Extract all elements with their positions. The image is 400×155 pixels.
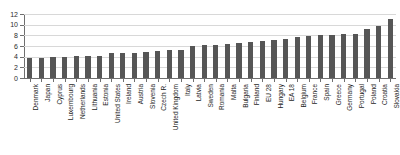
bar	[74, 56, 79, 78]
bar	[376, 26, 381, 78]
y-tick-mark	[20, 67, 24, 68]
x-tick-mark	[309, 79, 310, 82]
x-tick-mark	[355, 79, 356, 82]
bar	[155, 51, 160, 78]
x-tick-mark	[123, 79, 124, 82]
x-tick-label: EU 28	[265, 84, 272, 102]
x-tick-mark	[332, 79, 333, 82]
bar	[109, 53, 114, 78]
x-tick-label: Luxembourg	[67, 84, 74, 120]
x-tick-mark	[181, 79, 182, 82]
bar	[329, 35, 334, 78]
x-tick-mark	[262, 79, 263, 82]
x-tick-label: Sweden	[207, 84, 214, 108]
y-tick-label: 10	[4, 21, 18, 28]
x-tick-label: Malta	[230, 84, 237, 100]
x-tick-mark	[76, 79, 77, 82]
bar	[27, 58, 32, 78]
bar	[132, 53, 137, 78]
x-tick-mark	[390, 79, 391, 82]
x-tick-label: France	[311, 84, 318, 104]
x-tick-label: Germany	[346, 84, 353, 111]
x-tick-label: Japan	[44, 84, 51, 102]
x-tick-mark	[204, 79, 205, 82]
x-tick-label: Ireland	[125, 84, 132, 104]
x-tick-mark	[227, 79, 228, 82]
x-tick-label: Latvia	[195, 84, 202, 101]
bar	[120, 53, 125, 78]
x-tick-mark	[53, 79, 54, 82]
bar	[248, 42, 253, 78]
bar	[213, 45, 218, 78]
x-tick-label: Hungary	[277, 84, 284, 109]
x-tick-mark	[367, 79, 368, 82]
plot-area	[24, 14, 396, 78]
bar	[364, 29, 369, 78]
x-tick-label: Slovakia	[393, 84, 400, 109]
x-tick-label: Slovenia	[149, 84, 156, 109]
x-tick-mark	[146, 79, 147, 82]
bar	[97, 56, 102, 78]
x-tick-mark	[65, 79, 66, 82]
x-tick-label: Estonia	[102, 84, 109, 106]
y-tick-mark	[20, 25, 24, 26]
x-tick-label: Portugal	[358, 84, 365, 108]
bar	[143, 52, 148, 78]
y-tick-mark	[20, 57, 24, 58]
x-tick-label: Croatia	[381, 84, 388, 105]
x-tick-label: Greece	[335, 84, 342, 105]
x-tick-label: Austria	[137, 84, 144, 104]
bar	[190, 46, 195, 78]
y-tick-label: 2	[4, 64, 18, 71]
x-tick-label: Cyprus	[56, 84, 63, 105]
bar	[318, 35, 323, 78]
x-tick-mark	[88, 79, 89, 82]
x-tick-label: United States	[114, 84, 121, 123]
x-tick-label: Czech R.	[160, 84, 167, 111]
x-tick-mark	[134, 79, 135, 82]
y-tick-mark	[20, 46, 24, 47]
x-tick-label: Finland	[253, 84, 260, 105]
bar	[271, 40, 276, 78]
bar	[167, 50, 172, 78]
bar	[85, 56, 90, 78]
x-tick-mark	[320, 79, 321, 82]
bar	[306, 36, 311, 78]
x-tick-mark	[30, 79, 31, 82]
x-tick-mark	[100, 79, 101, 82]
x-tick-mark	[111, 79, 112, 82]
x-tick-mark	[193, 79, 194, 82]
bar	[236, 43, 241, 78]
y-tick-mark	[20, 35, 24, 36]
x-axis-line	[24, 78, 396, 79]
x-tick-mark	[274, 79, 275, 82]
bar	[202, 45, 207, 78]
bar-series	[24, 14, 396, 78]
x-tick-label: Lithuania	[91, 84, 98, 110]
x-tick-mark	[344, 79, 345, 82]
bar	[295, 37, 300, 78]
x-tick-label: Spain	[323, 84, 330, 101]
y-tick-label: 6	[4, 43, 18, 50]
x-tick-label: Romania	[218, 84, 225, 110]
bar	[341, 34, 346, 78]
x-tick-label: Belgium	[300, 84, 307, 107]
bar	[225, 44, 230, 78]
x-tick-mark	[169, 79, 170, 82]
x-tick-mark	[286, 79, 287, 82]
x-tick-label: Poland	[370, 84, 377, 104]
y-tick-label: 12	[4, 11, 18, 18]
bar	[260, 41, 265, 78]
x-tick-label: EA 18	[288, 84, 295, 101]
bar	[388, 19, 393, 78]
x-tick-mark	[297, 79, 298, 82]
x-tick-label: United Kingdom	[172, 84, 179, 130]
bar	[62, 57, 67, 78]
bar	[50, 57, 55, 78]
x-tick-mark	[239, 79, 240, 82]
y-tick-mark	[20, 14, 24, 15]
x-tick-label: Italy	[184, 84, 191, 96]
bar	[178, 50, 183, 78]
y-tick-label: 8	[4, 32, 18, 39]
bar-chart: 024681012 DenmarkJapanCyprusLuxembourgNe…	[0, 0, 400, 155]
